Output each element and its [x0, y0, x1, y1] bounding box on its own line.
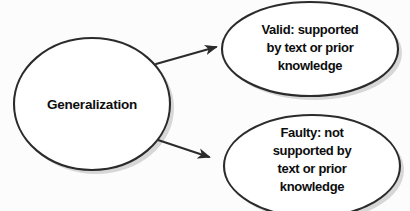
diagram-canvas: Generalization Valid: supported by text …: [0, 0, 410, 211]
connector-root-to-valid: [156, 47, 216, 64]
root-node-label: Generalization: [47, 97, 137, 112]
faulty-node-label-line-3: text or prior: [277, 161, 346, 176]
faulty-node-label-line-1: Faulty: not: [280, 125, 344, 140]
valid-node-label-line-1: Valid: supported: [261, 22, 358, 37]
concept-map-diagram: Generalization Valid: supported by text …: [0, 0, 410, 211]
node-generalization[interactable]: Generalization: [14, 38, 170, 170]
node-faulty[interactable]: Faulty: not supported by text or prior k…: [224, 115, 400, 211]
faulty-node-label-line-4: knowledge: [280, 179, 345, 194]
faulty-node-label-line-2: supported by: [273, 143, 353, 158]
connector-line-faulty: [158, 140, 209, 157]
valid-node-label-line-3: knowledge: [278, 58, 343, 73]
valid-node-label-line-2: by text or prior: [267, 40, 354, 55]
node-valid[interactable]: Valid: supported by text or prior knowle…: [222, 2, 398, 96]
connector-line-valid: [156, 47, 216, 64]
connector-root-to-faulty: [158, 140, 209, 157]
